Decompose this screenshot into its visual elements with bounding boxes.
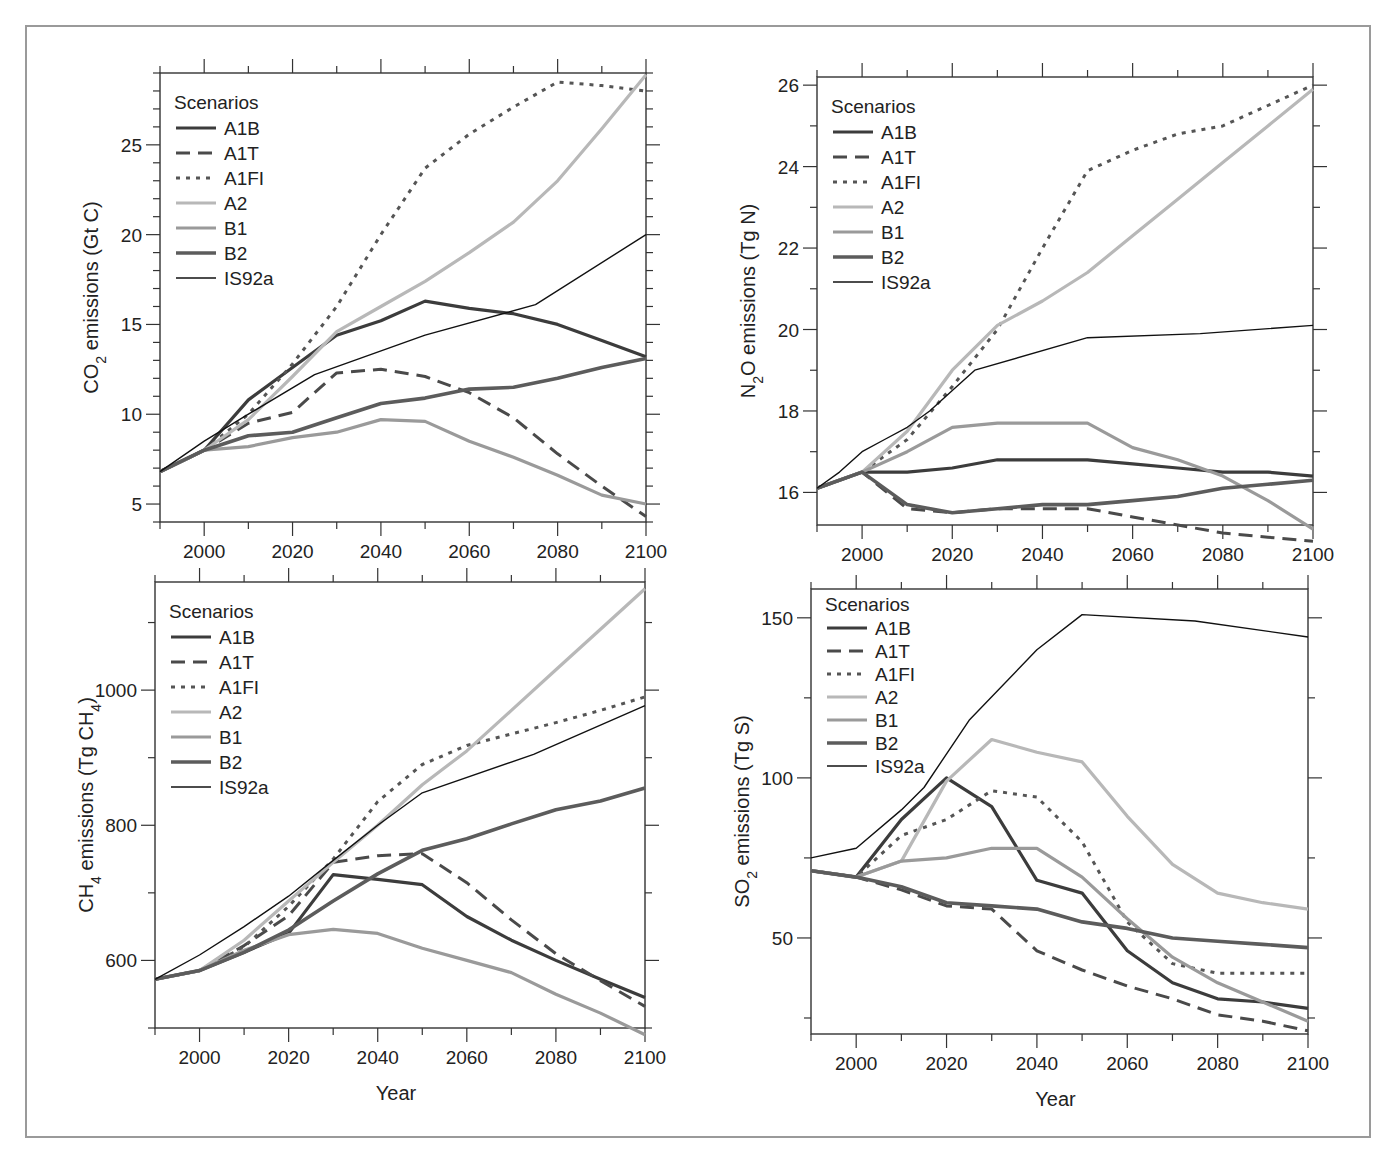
y-tick-label: 24 [778,157,800,178]
x-tick-label: 2000 [178,1047,220,1068]
x-tick-label: 2020 [925,1053,967,1074]
legend: ScenariosA1BA1TA1FIA2B1B2IS92a [831,96,931,293]
legend-label-a1b: A1B [219,627,255,648]
y-axis: 161820222426N2O emissions (Tg N) [737,75,1327,503]
legend-label-is92a: IS92a [875,756,925,777]
y-tick-label: 50 [772,928,793,949]
legend: ScenariosA1BA1TA1FIA2B1B2IS92a [825,594,925,777]
y-tick-label: 15 [121,314,142,335]
x-tick-label: 2040 [1016,1053,1058,1074]
x-tick-label: 2060 [446,1047,488,1068]
x-tick-label: 2060 [1111,544,1153,565]
legend-label-a1b: A1B [875,618,911,639]
legend-label-b1: B1 [875,710,898,731]
series-a1t [155,854,645,1007]
legend-label-a1t: A1T [219,652,254,673]
y-tick-label: 22 [778,238,799,259]
legend-label-is92a: IS92a [219,777,269,798]
legend-label-a1b: A1B [881,122,917,143]
x-tick-label: 2060 [1106,1053,1148,1074]
y-axis: 50100150SO2 emissions (Tg S) [731,608,1322,1018]
y-axis: 510152025CO2 emissions (Gt C) [80,73,660,522]
y-axis-label: SO2 emissions (Tg S) [731,715,760,907]
x-tick-label: 2100 [625,541,667,562]
y-tick-label: 25 [121,135,142,156]
series-a1t [817,472,1313,541]
x-tick-label: 2000 [841,544,883,565]
x-tick-label: 2080 [535,1047,577,1068]
x-tick-label: 2080 [1202,544,1244,565]
legend-title: Scenarios [831,96,916,117]
co2-emissions-chart: 200020202040206020802100510152025CO2 emi… [80,59,667,562]
legend-title: Scenarios [174,92,259,113]
legend-title: Scenarios [825,594,910,615]
x-tick-label: 2080 [1196,1053,1238,1074]
legend-label-b2: B2 [224,243,247,264]
x-tick-label: 2040 [1021,544,1063,565]
legend-label-a1fi: A1FI [219,677,259,698]
legend-label-a1t: A1T [875,641,910,662]
legend: ScenariosA1BA1TA1FIA2B1B2IS92a [169,601,269,798]
plot-area [160,73,646,522]
y-tick-label: 26 [778,75,799,96]
y-axis-label: N2O emissions (Tg N) [737,204,766,399]
y-tick-label: 20 [121,225,142,246]
y-tick-label: 10 [121,404,142,425]
legend-label-a1t: A1T [224,143,259,164]
series-lines [160,75,646,517]
legend: ScenariosA1BA1TA1FIA2B1B2IS92a [174,92,274,289]
x-axis-label: Year [1035,1088,1076,1110]
legend-label-b2: B2 [219,752,242,773]
x-tick-label: 2080 [536,541,578,562]
legend-label-a1b: A1B [224,118,260,139]
n2o-emissions-chart: 200020202040206020802100161820222426N2O … [737,63,1334,565]
legend-label-a2: A2 [224,193,247,214]
series-b1 [811,848,1308,1021]
y-tick-label: 600 [105,950,137,971]
x-axis-label: Year [376,1082,417,1104]
y-tick-label: 20 [778,320,799,341]
series-b1 [817,423,1313,529]
y-tick-label: 18 [778,401,799,422]
legend-label-is92a: IS92a [224,268,274,289]
legend-label-a1fi: A1FI [224,168,264,189]
x-tick-label: 2000 [183,541,225,562]
y-tick-label: 16 [778,482,799,503]
x-tick-label: 2000 [835,1053,877,1074]
legend-label-a2: A2 [881,197,904,218]
x-tick-label: 2040 [360,541,402,562]
series-b1 [155,929,645,1035]
x-axis: 200020202040206020802100Year [155,568,666,1104]
x-tick-label: 2060 [448,541,490,562]
x-tick-label: 2040 [357,1047,399,1068]
y-axis-label: CO2 emissions (Gt C) [80,201,109,393]
y-tick-label: 100 [761,768,793,789]
legend-label-a2: A2 [875,687,898,708]
legend-label-b1: B1 [224,218,247,239]
legend-label-a2: A2 [219,702,242,723]
series-a1b [160,301,646,472]
ch4-emissions-chart: 200020202040206020802100Year6008001000CH… [75,568,666,1104]
series-a1t [811,871,1308,1031]
legend-label-b1: B1 [881,222,904,243]
x-tick-label: 2020 [271,541,313,562]
legend-label-a1fi: A1FI [875,664,915,685]
x-tick-label: 2020 [267,1047,309,1068]
legend-label-b1: B1 [219,727,242,748]
legend-title: Scenarios [169,601,254,622]
x-tick-label: 2100 [624,1047,666,1068]
emissions-figure: 200020202040206020802100510152025CO2 emi… [0,0,1388,1155]
legend-label-a1t: A1T [881,147,916,168]
x-tick-label: 2100 [1292,544,1334,565]
y-tick-label: 5 [131,494,142,515]
legend-label-a1fi: A1FI [881,172,921,193]
x-tick-label: 2100 [1287,1053,1329,1074]
legend-label-b2: B2 [875,733,898,754]
y-tick-label: 150 [761,608,793,629]
y-tick-label: 800 [105,815,137,836]
legend-label-is92a: IS92a [881,272,931,293]
y-axis-label: CH4 emissions (Tg CH4) [75,697,104,913]
series-b2 [811,871,1308,948]
series-a1t [160,369,646,516]
series-is92a [817,325,1313,488]
